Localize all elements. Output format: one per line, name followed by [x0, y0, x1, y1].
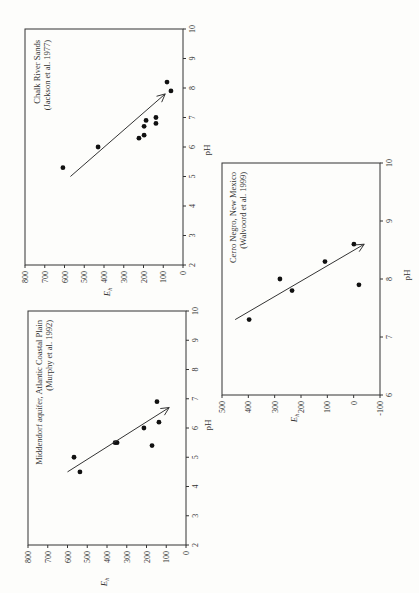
- data-point: [157, 420, 162, 425]
- ph-tick-label: 4: [191, 485, 200, 489]
- data-point: [278, 277, 283, 282]
- ph-tick-label: 5: [191, 455, 200, 459]
- eh-tick-label: 300: [120, 271, 129, 283]
- panel-title: Cerro Negro, New Mexico: [228, 172, 238, 263]
- ph-tick-label: 4: [188, 204, 197, 208]
- ph-tick-label: 2: [188, 263, 197, 267]
- data-point: [352, 242, 357, 247]
- ph-tick-label: 10: [188, 25, 197, 33]
- data-point: [142, 426, 147, 431]
- trend-arrow: [70, 94, 165, 177]
- data-point: [72, 455, 77, 460]
- panel-citation: (Murphy et al. 1992): [44, 320, 54, 391]
- ph-tick-label: 3: [191, 514, 200, 518]
- ph-tick-label: 6: [385, 393, 394, 397]
- ph-tick-label: 9: [191, 338, 200, 342]
- eh-tick-label: 300: [271, 401, 280, 413]
- eh-tick-label: 800: [24, 551, 33, 563]
- eh-tick-label: 0: [350, 401, 359, 405]
- figure: 01002003004005006007008002345678910EhpHC…: [0, 0, 419, 593]
- data-point: [357, 282, 362, 287]
- eh-tick-label: 500: [80, 271, 89, 283]
- data-point: [155, 399, 160, 404]
- eh-tick-label: 700: [44, 551, 53, 563]
- ph-tick-label: 7: [385, 335, 394, 339]
- eh-tick-label: 400: [100, 271, 109, 283]
- eh-tick-label: 100: [159, 271, 168, 283]
- eh-tick-label: 0: [179, 271, 188, 275]
- data-point: [61, 165, 66, 170]
- ph-tick-label: 10: [385, 159, 394, 167]
- panel-cerro-negro: -1000100200300400500678910EhpHCerro Negr…: [218, 159, 412, 423]
- eh-tick-label: 100: [323, 401, 332, 413]
- panel-chalk-river: 01002003004005006007008002345678910EhpHC…: [21, 25, 212, 297]
- eh-tick-label: 200: [297, 401, 306, 413]
- eh-tick-label: 200: [143, 551, 152, 563]
- panel-title: Middendorf aquifer, Atlantic Coastal Pla…: [34, 319, 44, 465]
- data-point: [142, 124, 147, 129]
- eh-tick-label: 600: [61, 271, 70, 283]
- ph-tick-label: 6: [191, 426, 200, 430]
- panel-title: Chalk River Sands: [32, 40, 42, 104]
- data-point: [169, 89, 174, 94]
- data-point: [323, 259, 328, 264]
- eh-tick-label: 700: [41, 271, 50, 283]
- data-point: [96, 145, 101, 150]
- data-point: [154, 121, 159, 126]
- panel-middendorf: 01002003004005006007008002345678910EhpHM…: [24, 307, 213, 587]
- data-point: [142, 133, 147, 138]
- ph-tick-label: 8: [385, 277, 394, 281]
- ph-axis-label: pH: [402, 269, 412, 281]
- data-point: [137, 136, 142, 141]
- data-point: [165, 80, 170, 85]
- eh-tick-label: 400: [244, 401, 253, 413]
- eh-tick-label: 500: [83, 551, 92, 563]
- ph-tick-label: 9: [188, 57, 197, 61]
- data-point: [154, 115, 159, 120]
- ph-tick-label: 5: [188, 175, 197, 179]
- eh-tick-label: 400: [103, 551, 112, 563]
- trend-arrow: [68, 408, 170, 472]
- ph-tick-label: 6: [188, 145, 197, 149]
- ph-axis-label: pH: [203, 419, 213, 431]
- eh-axis-label: Eh: [102, 288, 113, 298]
- trend-arrow: [235, 244, 364, 319]
- ph-tick-label: 3: [188, 234, 197, 238]
- ph-tick-label: 9: [385, 219, 394, 223]
- ph-tick-label: 7: [191, 397, 200, 401]
- ph-tick-label: 8: [191, 368, 200, 372]
- panel-citation: (Jackson et al. 1977): [42, 40, 52, 111]
- data-point: [290, 288, 295, 293]
- data-point: [150, 443, 155, 448]
- arrowhead-icon: [355, 244, 364, 251]
- eh-tick-label: 0: [182, 551, 191, 555]
- data-point: [78, 469, 83, 474]
- ph-tick-label: 2: [191, 543, 200, 547]
- eh-tick-label: 200: [140, 271, 149, 283]
- ph-tick-label: 8: [188, 86, 197, 90]
- eh-axis-label: Eh: [99, 578, 110, 588]
- eh-tick-label: 600: [64, 551, 73, 563]
- eh-tick-label: 100: [162, 551, 171, 563]
- ph-tick-label: 10: [191, 307, 200, 315]
- eh-tick-label: 300: [123, 551, 132, 563]
- data-point: [144, 118, 149, 123]
- ph-tick-label: 7: [188, 116, 197, 120]
- eh-tick-label: -100: [376, 401, 385, 416]
- eh-axis-label: Eh: [289, 414, 300, 424]
- panel-citation: (Walvoord et al. 1999): [238, 172, 248, 249]
- eh-tick-label: 500: [218, 401, 227, 413]
- ph-axis-label: pH: [202, 144, 212, 156]
- eh-tick-label: 800: [21, 271, 30, 283]
- data-point: [247, 317, 252, 322]
